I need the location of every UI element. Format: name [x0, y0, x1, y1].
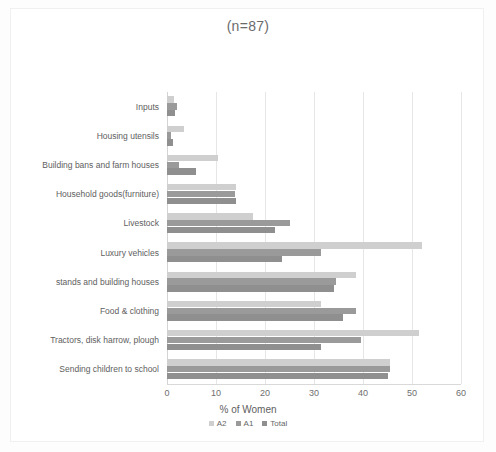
chart-figure: (n=87) InputsHousing utensilsBuilding ba… [0, 0, 496, 452]
x-tick-label-50: 50 [397, 388, 427, 398]
legend-item-a1[interactable]: A1 [236, 419, 254, 428]
bar-a1-1 [167, 132, 171, 138]
bar-total-4 [167, 227, 275, 233]
category-label-3: Household goods(furniture) [20, 189, 159, 199]
bar-total-7 [167, 314, 343, 320]
legend-swatch-icon [262, 421, 267, 426]
bar-a1-0 [167, 103, 177, 109]
bar-a1-4 [167, 220, 290, 226]
category-label-4: Livestock [20, 218, 159, 228]
category-label-5: Luxury vehicles [20, 248, 159, 258]
bar-a1-6 [167, 278, 336, 284]
bar-a2-0 [167, 96, 174, 102]
gridline-60 [461, 92, 462, 384]
chart-legend: A2A1Total [0, 419, 496, 428]
bar-a2-2 [167, 155, 218, 161]
x-tick-label-0: 0 [152, 388, 182, 398]
bar-total-2 [167, 168, 196, 174]
x-tick-label-20: 20 [250, 388, 280, 398]
bar-total-9 [167, 373, 388, 379]
bars-layer [167, 92, 461, 384]
bar-a2-9 [167, 359, 390, 365]
bar-total-6 [167, 285, 334, 291]
bar-a1-9 [167, 366, 390, 372]
bar-a1-3 [167, 191, 235, 197]
bar-a1-5 [167, 249, 321, 255]
legend-item-a2[interactable]: A2 [209, 419, 227, 428]
bar-a1-7 [167, 308, 356, 314]
bar-a1-2 [167, 162, 179, 168]
plot-area [167, 92, 461, 384]
x-axis-line [167, 384, 461, 385]
bar-total-1 [167, 139, 173, 145]
category-label-6: stands and building houses [20, 277, 159, 287]
legend-swatch-icon [236, 421, 241, 426]
bar-total-3 [167, 198, 236, 204]
legend-item-total[interactable]: Total [262, 419, 287, 428]
bar-a2-1 [167, 126, 184, 132]
legend-label: Total [270, 419, 287, 428]
bar-a2-6 [167, 272, 356, 278]
x-axis-tick-labels: 0102030405060 [167, 388, 461, 402]
bar-a1-8 [167, 337, 361, 343]
bar-a2-8 [167, 330, 419, 336]
legend-label: A2 [217, 419, 227, 428]
x-tick-label-30: 30 [299, 388, 329, 398]
category-label-2: Building bans and farm houses [20, 160, 159, 170]
bar-total-0 [167, 110, 175, 116]
legend-swatch-icon [209, 421, 214, 426]
category-label-8: Tractors, disk harrow, plough [20, 335, 159, 345]
bar-a2-7 [167, 301, 321, 307]
chart-title: (n=87) [0, 18, 496, 34]
category-label-0: Inputs [20, 102, 159, 112]
legend-label: A1 [244, 419, 254, 428]
x-tick-label-10: 10 [201, 388, 231, 398]
bar-total-5 [167, 256, 282, 262]
category-axis-labels: InputsHousing utensilsBuilding bans and … [20, 92, 163, 384]
x-axis-title: % of Women [0, 404, 496, 415]
category-label-9: Sending children to school [20, 364, 159, 374]
bar-a2-5 [167, 242, 422, 248]
category-label-1: Housing utensils [20, 131, 159, 141]
bar-total-8 [167, 344, 321, 350]
category-label-7: Food & clothing [20, 306, 159, 316]
x-tick-label-60: 60 [446, 388, 476, 398]
bar-a2-3 [167, 184, 236, 190]
x-tick-label-40: 40 [348, 388, 378, 398]
bar-a2-4 [167, 213, 253, 219]
